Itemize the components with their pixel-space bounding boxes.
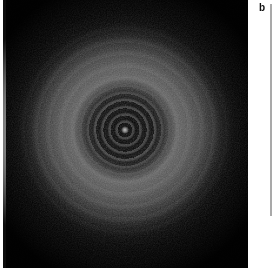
panel-label-b: b	[259, 2, 265, 14]
central-bright-spot	[3, 0, 248, 268]
figure-panel-b: b	[0, 0, 280, 274]
sensor-grain-texture	[3, 0, 248, 268]
outer-halo	[3, 0, 248, 268]
corner-vignette	[3, 0, 248, 268]
diffraction-pattern-image	[3, 0, 248, 268]
dark-core-disc	[3, 0, 248, 268]
outer-interference-fringes	[3, 0, 248, 268]
vertical-divider	[270, 4, 272, 216]
concentric-interference-fringes	[3, 0, 248, 268]
panel-left-margin-rule	[3, 0, 6, 268]
